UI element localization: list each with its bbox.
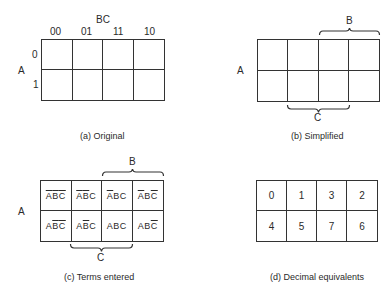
b-variable-label: B <box>346 16 353 26</box>
col-header-11: 11 <box>113 27 123 37</box>
row-header-0: 0 <box>32 50 38 60</box>
col-header-10: 10 <box>144 27 155 37</box>
caption-terms-entered: (c) Terms entered <box>64 273 134 282</box>
decimal-cell: 2 <box>347 181 377 211</box>
decimal-cell: 5 <box>287 211 317 241</box>
c-variable-label: C <box>314 113 321 123</box>
row-header-1: 1 <box>33 80 39 90</box>
kmap-grid-decimal: 0 1 3 2 4 5 7 6 <box>256 180 378 242</box>
kmap-cell <box>134 40 165 70</box>
bc-variable-label: BC <box>96 15 110 25</box>
kmap-cell <box>103 70 134 100</box>
kmap-cell <box>134 70 165 100</box>
kmap-term-cell: ABC <box>72 181 103 211</box>
col-header-00: 00 <box>50 27 61 37</box>
kmap-term-cell: ABC <box>102 211 133 241</box>
kmap-cell <box>349 71 379 102</box>
decimal-cell: 4 <box>257 211 287 241</box>
kmap-cell <box>258 40 288 71</box>
kmap-grid-simplified <box>257 39 380 102</box>
b-brace <box>319 28 380 36</box>
decimal-cell: 6 <box>347 211 377 241</box>
kmap-term-cell: ABC <box>72 211 103 241</box>
kmap-grid-original <box>41 39 165 101</box>
kmap-grid-terms: ABC ABC ABC ABC ABC ABC ABC ABC <box>40 180 164 242</box>
kmap-cell <box>288 71 318 102</box>
a-variable-label: A <box>18 207 25 217</box>
kmap-cell <box>42 40 73 70</box>
decimal-cell: 1 <box>287 181 317 211</box>
kmap-cell <box>319 71 349 102</box>
kmap-term-cell: ABC <box>133 211 164 241</box>
kmap-cell <box>42 70 73 100</box>
kmap-term-cell: ABC <box>133 181 164 211</box>
kmap-term-cell: ABC <box>41 211 72 241</box>
c-variable-label: C <box>97 253 104 263</box>
kmap-cell <box>288 40 318 71</box>
kmap-cell <box>258 71 288 102</box>
b-variable-label: B <box>129 157 136 167</box>
caption-simplified: (b) Simplified <box>291 132 344 141</box>
col-header-01: 01 <box>81 27 92 37</box>
c-brace <box>70 244 133 252</box>
decimal-cell: 7 <box>317 211 347 241</box>
decimal-cell: 0 <box>257 181 287 211</box>
kmap-cell <box>73 40 104 70</box>
a-variable-label: A <box>237 66 244 76</box>
b-brace <box>102 169 164 177</box>
caption-decimal-equivalents: (d) Decimal equivalents <box>270 273 364 282</box>
decimal-cell: 3 <box>317 181 347 211</box>
kmap-cell <box>349 40 379 71</box>
kmap-cell <box>73 70 104 100</box>
kmap-cell <box>319 40 349 71</box>
kmap-term-cell: ABC <box>41 181 72 211</box>
kmap-cell <box>103 40 134 70</box>
caption-original: (a) Original <box>80 132 125 141</box>
kmap-term-cell: ABC <box>102 181 133 211</box>
a-variable-label: A <box>18 66 25 76</box>
